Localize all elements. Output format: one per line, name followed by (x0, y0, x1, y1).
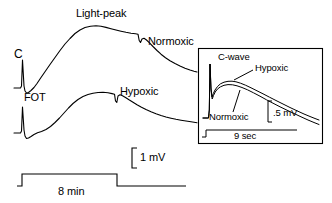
hypoxic-label: Hypoxic (120, 86, 158, 97)
inset-time-scale-label: 9 sec (234, 131, 256, 141)
c-wave-label: C (14, 48, 23, 60)
inset-c-wave-label: C-wave (218, 52, 250, 62)
inset-normoxic-label: Normoxic (209, 112, 248, 122)
main-time-scale-label: 8 min (58, 186, 84, 197)
main-stimulus-trace (17, 174, 186, 186)
inset-amplitude-scale-label: .5 mV (273, 108, 297, 118)
fot-label: FOT (24, 92, 46, 103)
light-peak-label: Light-peak (76, 8, 126, 19)
figure-canvas (0, 0, 332, 203)
main-amplitude-scale-bar (132, 148, 137, 168)
main-amplitude-scale-label: 1 mV (140, 152, 165, 163)
erg-figure: Light-peak C FOT Normoxic Hypoxic 1 mV 8… (0, 0, 332, 203)
normoxic-label: Normoxic (148, 36, 194, 47)
inset-hypoxic-label: Hypoxic (255, 63, 288, 73)
